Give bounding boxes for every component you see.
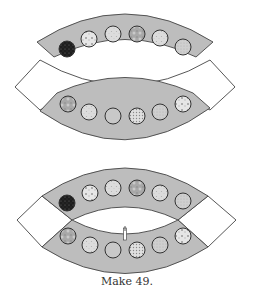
fabric-circle-2	[81, 31, 97, 47]
figure-assembled	[17, 168, 236, 274]
fabric-circle-1	[59, 41, 75, 57]
fabric-circle-1	[60, 96, 76, 112]
fabric-circle-1	[59, 195, 75, 211]
figure-caption: Make 49.	[0, 275, 254, 288]
fabric-circle-2	[81, 104, 97, 120]
fabric-circle-6	[175, 228, 191, 244]
fabric-circle-4	[129, 26, 145, 42]
fabric-circle-2	[82, 237, 98, 253]
fabric-circle-3	[105, 180, 121, 196]
fabric-circle-5	[152, 237, 168, 253]
fabric-circle-4	[129, 242, 145, 258]
fabric-circle-3	[105, 26, 121, 42]
fabric-circle-5	[152, 30, 168, 46]
fabric-circle-5	[152, 185, 168, 201]
fabric-circle-6	[175, 193, 191, 209]
fabric-circle-6	[175, 96, 191, 112]
fabric-circle-4	[129, 108, 145, 124]
quilt-diagram	[0, 0, 254, 302]
figure-exploded	[15, 14, 235, 140]
fabric-circle-1	[60, 228, 76, 244]
fabric-circle-4	[129, 180, 145, 196]
fabric-circle-3	[105, 108, 121, 124]
fabric-circle-5	[152, 104, 168, 120]
fabric-circle-6	[175, 39, 191, 55]
fabric-circle-2	[82, 185, 98, 201]
fabric-circle-3	[105, 242, 121, 258]
pin-marker-icon	[124, 226, 127, 240]
